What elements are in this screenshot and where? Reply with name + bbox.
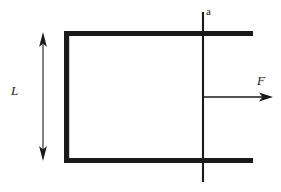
dimension-arrow-L bbox=[39, 32, 47, 161]
force-label: F bbox=[257, 74, 265, 87]
diagram-svg bbox=[0, 0, 281, 192]
axis-label: a bbox=[206, 6, 211, 17]
length-label: L bbox=[11, 84, 18, 97]
force-arrow-F bbox=[203, 93, 273, 102]
figure-canvas: L F a bbox=[0, 0, 281, 192]
